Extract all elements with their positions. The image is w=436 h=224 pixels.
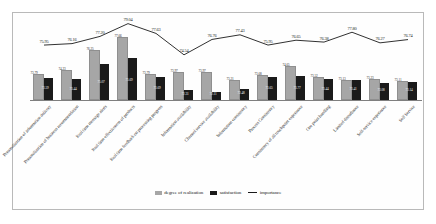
bar-value-label-satisfaction: 73.08: [378, 89, 385, 92]
legend-label-importance: importance: [260, 190, 282, 195]
chart-root: 73.7973.5974.2373.4476.2575.0777.6675.69…: [0, 0, 436, 224]
bar-value-label-satisfaction: 73.44: [322, 88, 329, 91]
bar-value-label-satisfaction: 73.77: [294, 87, 301, 90]
bar-degree-of-realization: [229, 80, 240, 100]
bar-group: 73.9772.31: [171, 16, 197, 100]
bar-value-label-satisfaction: 72.48: [238, 92, 245, 95]
x-tick-label: Process Consistency: [248, 104, 276, 134]
bar-value-label-degree-of-realization: 73.79: [31, 72, 38, 75]
bar-value-label-degree-of-realization: 73.52: [311, 75, 318, 78]
bar-value-label-degree-of-realization: 77.66: [115, 35, 122, 38]
chart-legend: degree of realization satisfaction impor…: [0, 190, 436, 195]
bar-value-label-degree-of-realization: 73.97: [199, 70, 206, 73]
bar-group: 74.6573.77: [283, 16, 309, 100]
bar-group: 73.5273.44: [311, 16, 337, 100]
bar-value-label-satisfaction: 73.65: [266, 87, 273, 90]
bar-value-label-satisfaction: 72.11: [210, 93, 217, 96]
legend-item-degree-of-realization: degree of realization: [155, 190, 204, 195]
bar-value-label-satisfaction: 73.59: [42, 87, 49, 90]
bar-group: 73.2172.48: [227, 16, 253, 100]
x-tick-label: Personalization of business recommendati…: [23, 104, 80, 164]
x-axis-tick-labels: Personalization of information deliveryP…: [30, 102, 422, 172]
x-tick-label: Real time feedback on processing progres…: [109, 104, 164, 162]
bar-group: 73.7973.69: [143, 16, 169, 100]
x-tick-label: Information availability: [160, 104, 192, 138]
x-tick-label: One point handling: [305, 104, 332, 132]
bar-value-label-satisfaction: 72.31: [182, 93, 189, 96]
bar-group: 73.1173.14: [395, 16, 421, 100]
bar-value-label-degree-of-realization: 76.25: [87, 48, 94, 51]
x-tick-label: Self Service: [398, 104, 416, 123]
bar-value-label-degree-of-realization: 73.68: [255, 73, 262, 76]
legend-label-satisfaction: satisfaction: [220, 190, 242, 195]
bar-value-label-degree-of-realization: 73.97: [171, 70, 178, 73]
black-bar-swatch-icon: [210, 191, 217, 195]
x-tick-label: Self-service experience: [356, 104, 387, 137]
bar-group: 74.2373.44: [59, 16, 85, 100]
x-axis-line: [30, 100, 422, 101]
x-tick-label: Limited disturbance: [332, 104, 360, 133]
bar-group: 73.2373.08: [367, 16, 393, 100]
bar-degree-of-realization: [89, 50, 100, 100]
legend-item-importance: importance: [248, 190, 281, 195]
bar-value-label-degree-of-realization: 73.23: [367, 77, 374, 80]
plot-area: 73.7973.5974.2373.4476.2575.0777.6675.69…: [30, 16, 422, 100]
bar-value-label-satisfaction: 75.07: [98, 81, 105, 84]
bar-group: 77.6675.69: [115, 16, 141, 100]
x-tick-label: Consistency of all touchpoint experience: [252, 104, 304, 159]
bar-degree-of-realization: [61, 70, 72, 100]
bar-value-label-degree-of-realization: 73.79: [143, 72, 150, 75]
bar-value-label-satisfaction: 73.41: [350, 88, 357, 91]
bar-group: 73.1373.41: [339, 16, 365, 100]
legend-item-satisfaction: satisfaction: [210, 190, 241, 195]
bar-value-label-degree-of-realization: 74.23: [59, 68, 66, 71]
bar-value-label-degree-of-realization: 74.65: [283, 64, 290, 67]
bar-value-label-satisfaction: 73.69: [154, 87, 161, 90]
bar-value-label-degree-of-realization: 73.13: [339, 78, 346, 81]
bar-group: 73.7973.59: [31, 16, 57, 100]
legend-label-degree-of-realization: degree of realization: [164, 190, 203, 195]
bar-value-label-satisfaction: 73.14: [406, 89, 413, 92]
bar-degree-of-realization: [285, 66, 296, 100]
bar-value-label-satisfaction: 75.69: [126, 79, 133, 82]
bar-value-label-degree-of-realization: 73.11: [395, 79, 402, 82]
bar-group: 76.2575.07: [87, 16, 113, 100]
gray-bar-swatch-icon: [155, 191, 162, 195]
line-swatch-icon: [248, 192, 257, 193]
x-tick-label: Information consistency: [215, 104, 247, 138]
bar-value-label-satisfaction: 73.44: [70, 88, 77, 91]
bar-group: 73.6873.65: [255, 16, 281, 100]
bar-degree-of-realization: [117, 37, 128, 100]
bar-value-label-degree-of-realization: 73.21: [227, 78, 234, 81]
bar-group: 73.9772.11: [199, 16, 225, 100]
